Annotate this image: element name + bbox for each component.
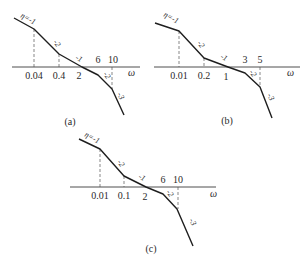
panel-c-slope-label-3: -1 [137, 172, 147, 183]
panel-a-asymptote-curve [14, 18, 124, 115]
panel-c-omega-label: ω [210, 188, 217, 199]
panel-a-slope-label-1: η=-1 [19, 11, 37, 26]
panel-c-break-label: 2 [143, 191, 148, 202]
panel-c-caption: (c) [145, 243, 156, 255]
panel-a-break-label: 0.04 [25, 70, 43, 81]
panel-c-break-label: 6 [161, 174, 166, 185]
panel-c-break-label: 10 [173, 174, 183, 185]
panel-b-break-label: 1 [224, 71, 229, 82]
panel-a-caption: (a) [64, 116, 75, 128]
panel-b-break-label: 3 [243, 54, 248, 65]
panel-b-break-label: 5 [258, 54, 263, 65]
panel-c: η=-1 -2 -1 -2 -3 0.01 0.1 2 6 10 ω (c) [70, 130, 217, 255]
panel-a-break-label: 2 [77, 70, 82, 81]
panel-a-omega-label: ω [128, 67, 135, 78]
panel-b-slope-label-2: -2 [195, 39, 206, 50]
bode-asymptote-figure: η=-1 -2 -1 -2 -3 0.04 0.4 2 6 10 ω (a) η… [0, 0, 304, 265]
panel-a: η=-1 -2 -1 -2 -3 0.04 0.4 2 6 10 ω (a) [12, 11, 140, 128]
panel-a-slope-label-4: -2 [101, 70, 112, 81]
panel-c-break-label: 0.1 [118, 190, 131, 201]
panel-c-slope-label-5: -3 [187, 217, 198, 227]
panel-c-break-label: 0.01 [91, 190, 109, 201]
panel-b-caption: (b) [221, 115, 233, 127]
panel-b-break-label: 0.2 [198, 70, 211, 81]
panel-b: η=-1 -2 -1 -2 -3 0.01 0.2 1 3 5 ω (b) [154, 10, 300, 127]
panel-a-break-label: 10 [108, 54, 118, 65]
panel-a-slope-label-3: -1 [74, 53, 84, 64]
panel-a-break-label: 6 [96, 54, 101, 65]
panel-b-omega-label: ω [287, 67, 294, 78]
panel-b-slope-label-5: -3 [265, 92, 276, 102]
panel-b-slope-label-1: η=-1 [162, 10, 180, 25]
panel-a-break-label: 0.4 [53, 70, 66, 81]
panel-c-slope-label-2: -2 [115, 158, 126, 169]
panel-a-slope-label-2: -2 [51, 38, 62, 49]
panel-b-break-label: 0.01 [170, 70, 188, 81]
panel-b-slope-label-3: -1 [219, 52, 229, 63]
